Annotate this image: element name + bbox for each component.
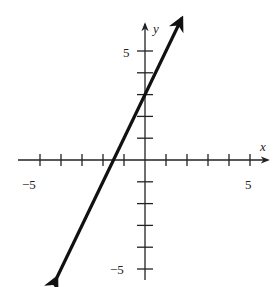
- x-tick-label-min: −5: [22, 177, 36, 192]
- x-axis-label: x: [259, 139, 266, 154]
- coordinate-plane: −5 5 5 −5 x y: [0, 0, 278, 287]
- y-tick-label-max: 5: [123, 45, 130, 60]
- y-tick-label-min: −5: [110, 262, 124, 277]
- y-axis-label: y: [151, 21, 159, 36]
- x-tick-label-max: 5: [245, 177, 252, 192]
- line-y-equals-2x-plus-3: [57, 18, 182, 277]
